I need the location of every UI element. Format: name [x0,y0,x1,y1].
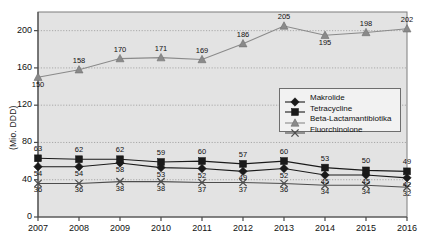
x-tick-label: 2012 [221,223,265,233]
y-tick-label: 120 [0,99,32,109]
marker-square [35,155,42,162]
marker-square [322,164,329,171]
data-label: 170 [106,46,134,54]
legend-label: Fluorchinolone [310,125,362,134]
y-tick-label: 0 [0,211,32,221]
legend-marker-triangle-icon [284,114,306,124]
data-label: 38 [106,185,134,193]
data-label: 45 [311,178,339,186]
data-label: 205 [270,13,298,21]
data-label: 60 [270,148,298,156]
data-label: 34 [352,188,380,196]
legend-item-fluorchinolone[interactable]: Fluorchinolone [284,124,395,134]
data-label: 57 [229,151,257,159]
data-label: 53 [311,155,339,163]
data-label: 45 [352,178,380,186]
data-label: 169 [188,47,216,55]
y-tick-label: 160 [0,62,32,72]
x-tick-label: 2015 [344,223,388,233]
x-tick-label: 2009 [98,223,142,233]
data-label: 186 [229,31,257,39]
data-label: 36 [270,186,298,194]
legend-marker-square-icon [284,103,306,113]
x-tick-label: 2008 [57,223,101,233]
data-label: 171 [147,45,175,53]
data-label: 36 [24,186,52,194]
data-label: 32 [393,190,421,198]
legend-marker-x-icon [284,124,306,134]
data-label: 63 [24,145,52,153]
marker-square [76,156,83,163]
x-tick-label: 2011 [180,223,224,233]
data-label: 50 [352,157,380,165]
data-label: 37 [188,186,216,194]
y-tick-label: 200 [0,25,32,35]
marker-square [281,158,288,165]
legend-label: Beta-Lactamantibiotika [310,114,391,123]
data-label: 54 [65,170,93,178]
x-tick-label: 2016 [385,223,422,233]
data-label: 54 [24,170,52,178]
chart-legend: MakrolideTetracyclineBeta-Lactamantibiot… [279,88,401,132]
data-label: 53 [147,171,175,179]
data-label: 36 [65,186,93,194]
data-label: 42 [393,181,421,189]
marker-square [363,167,370,174]
legend-label: Makrolide [310,93,345,102]
data-label: 49 [229,174,257,182]
legend-marker-diamond-icon [284,93,306,103]
marker-square [404,168,411,175]
data-label: 62 [106,146,134,154]
legend-item-beta-lactamantibiotika[interactable]: Beta-Lactamantibiotika [284,114,395,124]
x-tick-label: 2010 [139,223,183,233]
marker-square [199,158,206,165]
data-label: 59 [147,149,175,157]
marker-square [158,159,165,166]
x-tick-label: 2013 [262,223,306,233]
data-label: 60 [188,148,216,156]
x-tick-label: 2007 [16,223,60,233]
data-label: 38 [147,185,175,193]
legend-item-makrolide[interactable]: Makrolide [284,93,395,103]
data-label: 62 [65,146,93,154]
data-label: 195 [311,39,339,47]
x-tick-label: 2014 [303,223,347,233]
marker-square [240,160,247,167]
data-label: 150 [24,81,52,89]
data-label: 52 [188,172,216,180]
marker-square [117,156,124,163]
data-label: 202 [393,16,421,24]
legend-item-tetracycline[interactable]: Tetracycline [284,103,395,113]
data-label: 158 [65,57,93,65]
data-label: 52 [270,172,298,180]
legend-label: Tetracycline [310,104,352,113]
data-label: 37 [229,186,257,194]
data-label: 49 [393,158,421,166]
data-label: 198 [352,20,380,28]
data-label: 58 [106,166,134,174]
data-label: 34 [311,188,339,196]
